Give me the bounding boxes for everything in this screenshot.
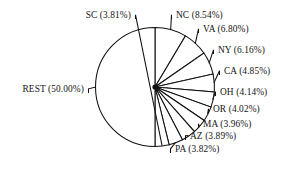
leader-line-rest (89, 87, 97, 93)
pie-slice-rest (96, 28, 156, 147)
slice-label-nc: NC (8.54%) (176, 10, 223, 21)
pie-center-hub (152, 84, 157, 89)
leader-line-nc (171, 15, 172, 30)
slice-label-az: AZ (3.89%) (190, 131, 236, 142)
leader-line-ny (209, 50, 213, 64)
slice-label-ny: NY (6.16%) (218, 45, 265, 56)
slice-label-ma: MA (3.96%) (203, 119, 251, 130)
slice-label-rest: REST (50.00%) (22, 84, 84, 95)
slice-label-or: OR (4.02%) (213, 104, 260, 115)
leader-line-ca (214, 71, 220, 83)
leader-line-va (195, 29, 198, 44)
pie-chart-figure: NC (8.54%) VA (6.80%) NY (6.16%) CA (4.8… (0, 0, 283, 172)
slice-label-oh: OH (4.14%) (220, 87, 267, 98)
slice-label-ca: CA (4.85%) (224, 66, 270, 77)
slice-label-va: VA (6.80%) (203, 24, 249, 35)
pie-chart-svg: NC (8.54%) VA (6.80%) NY (6.16%) CA (4.8… (0, 0, 283, 172)
slice-label-pa: PA (3.82%) (175, 144, 219, 155)
slice-label-sc: SC (3.81%) (86, 10, 131, 21)
